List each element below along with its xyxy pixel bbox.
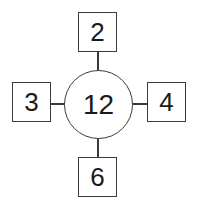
node-right[interactable]: 4 (147, 82, 186, 122)
node-center[interactable]: 12 (64, 70, 133, 139)
node-bottom[interactable]: 6 (78, 157, 117, 197)
diagram-canvas: 2 3 12 4 6 (0, 0, 197, 210)
node-top[interactable]: 2 (78, 12, 117, 52)
node-left[interactable]: 3 (12, 82, 51, 122)
edge-center-to-bottom (97, 136, 99, 158)
